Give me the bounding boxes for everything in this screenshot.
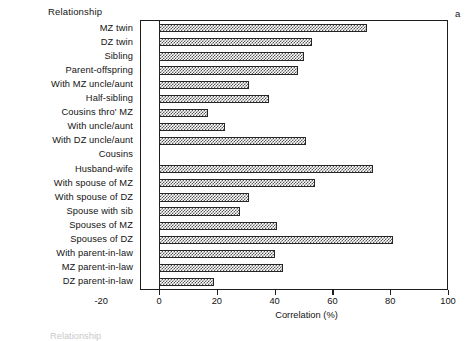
bar-row: With spouse of MZ	[0, 177, 469, 191]
bar-row: Cousins	[0, 149, 469, 163]
panel-letter: a	[455, 8, 460, 19]
bar	[159, 24, 367, 32]
bar-row-label: With uncle/aunt	[67, 121, 133, 132]
x-axis-tick-label: 20	[197, 296, 237, 307]
x-axis-tick-label: 80	[370, 296, 410, 307]
bar-row-label: Spouses of MZ	[69, 220, 133, 231]
bar-row: With DZ uncle/aunt	[0, 135, 469, 149]
bar-row: Cousins thro' MZ	[0, 107, 469, 121]
bar-row: Spouse with sib	[0, 205, 469, 219]
bar-row-label: Cousins	[99, 149, 133, 160]
bar-row-label: Sibling	[104, 51, 133, 62]
bar	[159, 95, 269, 103]
bar-row: DZ parent-in-law	[0, 276, 469, 290]
bar	[159, 137, 306, 145]
bar-row-label: DZ parent-in-law	[63, 276, 133, 287]
bar-row: Spouses of DZ	[0, 234, 469, 248]
bar	[159, 66, 298, 74]
bar-row-label: With spouse of DZ	[55, 192, 133, 203]
x-axis-tick-label: 0	[139, 296, 179, 307]
bar-row: DZ twin	[0, 36, 469, 50]
bar-row-label: With parent-in-law	[56, 248, 133, 259]
x-axis-tick	[448, 290, 449, 295]
x-axis-tick-label: 100	[428, 296, 468, 307]
x-axis-tick	[159, 290, 160, 295]
bar-rows: MZ twinDZ twinSiblingParent-offspringWit…	[0, 22, 469, 290]
x-axis-tick	[275, 290, 276, 295]
bar	[159, 165, 373, 173]
bar	[159, 222, 277, 230]
bar-row: Parent-offspring	[0, 64, 469, 78]
bar	[159, 207, 240, 215]
bar	[159, 236, 393, 244]
category-axis-title: Relationship	[48, 6, 102, 17]
bar-row: With spouse of DZ	[0, 191, 469, 205]
bar	[159, 278, 214, 286]
bar-row-label: MZ twin	[100, 23, 133, 34]
x-axis-tick	[332, 290, 333, 295]
x-axis-title-text: Correlation (%)	[275, 310, 338, 320]
bar-row-label: Half-sibling	[86, 93, 133, 104]
footer-ghost-text: Relationship	[50, 331, 101, 341]
bar-row: Sibling	[0, 50, 469, 64]
bar-row-label: Cousins thro' MZ	[61, 107, 133, 118]
bar	[159, 264, 283, 272]
bar-row-label: Spouse with sib	[66, 206, 133, 217]
bar-row-label: Parent-offspring	[65, 65, 133, 76]
bar	[159, 123, 225, 131]
x-axis-tick	[217, 290, 218, 295]
bar-row-label: Husband-wife	[75, 164, 133, 175]
bar-row: Husband-wife	[0, 163, 469, 177]
bar-chart-figure: Relationship a MZ twinDZ twinSiblingPare…	[0, 0, 469, 341]
bar-row: MZ parent-in-law	[0, 262, 469, 276]
bar-row: With MZ uncle/aunt	[0, 78, 469, 92]
x-axis-tick-label: 40	[255, 296, 295, 307]
bar	[159, 179, 315, 187]
bar-row-label: With MZ uncle/aunt	[51, 79, 133, 90]
bar	[159, 193, 249, 201]
bar-row: With parent-in-law	[0, 248, 469, 262]
bar-row-label: Spouses of DZ	[70, 234, 133, 245]
bar-row: With uncle/aunt	[0, 121, 469, 135]
bar-row: Half-sibling	[0, 93, 469, 107]
x-axis-tick-label: -20	[81, 296, 121, 307]
bar-row-label: With spouse of MZ	[54, 178, 133, 189]
bar	[159, 81, 249, 89]
bar-row: MZ twin	[0, 22, 469, 36]
x-axis-tick	[390, 290, 391, 295]
bar-row-label: DZ twin	[101, 37, 133, 48]
bar	[159, 109, 208, 117]
bar-row: Spouses of MZ	[0, 219, 469, 233]
bar-row-label: With DZ uncle/aunt	[52, 135, 133, 146]
x-axis-title: Correlation (%)	[0, 310, 469, 320]
x-axis-tick-label: 60	[312, 296, 352, 307]
bar	[159, 250, 275, 258]
bar	[159, 52, 304, 60]
bar	[159, 38, 312, 46]
bar-row-label: MZ parent-in-law	[62, 262, 133, 273]
